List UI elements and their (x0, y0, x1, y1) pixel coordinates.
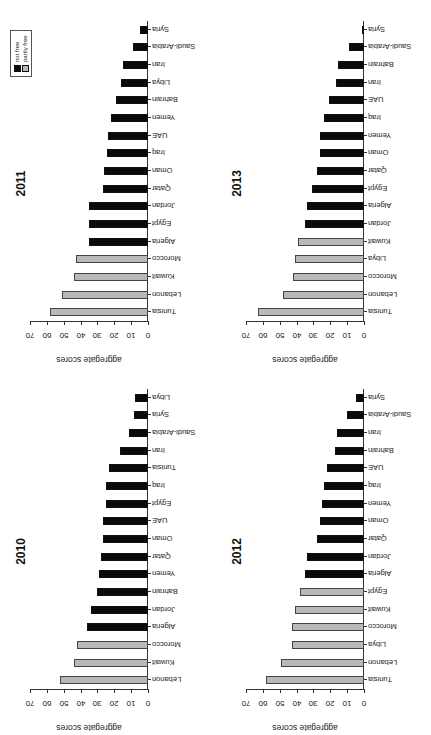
y-tick-label: 10 (124, 699, 138, 708)
y-axis-label-text: aggregate scores (56, 723, 122, 733)
x-tick (148, 556, 151, 557)
x-tick-label: Tunisia (368, 675, 392, 684)
bar-jordan (307, 553, 364, 561)
y-tick-label: 60 (40, 699, 54, 708)
x-tick (148, 414, 151, 415)
x-tick (364, 679, 367, 680)
x-tick (148, 64, 151, 65)
y-tick-label: 60 (40, 331, 54, 340)
bar-lebanon (281, 659, 364, 667)
y-tick-label: 50 (273, 699, 287, 708)
x-tick-label: Algeria (368, 201, 391, 210)
chart-title: 2013 (230, 0, 244, 367)
x-tick (364, 397, 367, 398)
x-tick-label: Lebanon (368, 658, 397, 667)
x-tick (364, 591, 367, 592)
legend-item: not free (13, 35, 21, 72)
x-tick-label: Saudi-Arabia (152, 42, 195, 51)
x-tick (364, 626, 367, 627)
bar-syria (140, 26, 148, 34)
x-tick-label: Egypt (368, 184, 387, 193)
figure-page: 2010aggregate scores010203040506070Leban… (0, 0, 431, 735)
x-tick (148, 679, 151, 680)
plot-area (30, 389, 148, 689)
x-tick-label: Qatar (152, 184, 171, 193)
x-tick-label: Tunisia (152, 307, 176, 316)
y-tick-label: 10 (340, 699, 354, 708)
x-tick-label: Qatar (368, 534, 387, 543)
y-tick (64, 689, 65, 693)
x-tick-label: Jordan (152, 201, 175, 210)
y-tick (280, 321, 281, 325)
bar-lebanon (60, 676, 148, 684)
y-tick (280, 689, 281, 693)
y-tick-label: 70 (23, 699, 37, 708)
bar-libya (295, 255, 364, 263)
x-tick (148, 450, 151, 451)
bar-oman (103, 535, 149, 543)
x-tick (148, 538, 151, 539)
x-tick-label: Iran (368, 428, 381, 437)
x-tick-label: Qatar (152, 552, 171, 561)
x-tick-label: Algeria (152, 237, 175, 246)
x-tick (364, 503, 367, 504)
bar-kuwait (74, 659, 148, 667)
y-tick (246, 321, 247, 325)
x-tick-label: Saudi-Arabia (152, 428, 195, 437)
y-axis: 010203040506070 (246, 321, 364, 333)
bar-qatar (101, 553, 148, 561)
bar-iran (336, 79, 364, 87)
bar-yemen (320, 132, 364, 140)
x-tick-label: Iran (152, 60, 165, 69)
bar-oman (320, 149, 364, 157)
bar-libya (121, 79, 148, 87)
y-tick (347, 689, 348, 693)
x-tick (364, 170, 367, 171)
x-tick-label: Iran (368, 78, 381, 87)
x-tick (364, 573, 367, 574)
y-tick-label: 0 (141, 699, 155, 708)
x-tick (148, 485, 151, 486)
x-tick-label: Yemen (152, 569, 175, 578)
y-tick-label: 60 (256, 699, 270, 708)
x-tick-label: Qatar (368, 166, 387, 175)
panel-2012: 2012aggregate scores010203040506070Tunis… (216, 368, 431, 735)
y-tick (364, 689, 365, 693)
bar-iraq (324, 482, 364, 490)
bar-morocco (293, 273, 364, 281)
bar-iran (337, 429, 364, 437)
x-tick-label: Iraq (368, 113, 381, 122)
x-tick-label: Yemen (368, 131, 391, 140)
x-tick (148, 188, 151, 189)
plot-area (30, 21, 148, 321)
x-tick-label: Saudi-Arabia (368, 410, 411, 419)
x-tick (364, 152, 367, 153)
legend: not freepartly free (10, 30, 32, 77)
y-axis: 010203040506070 (30, 321, 148, 333)
bar-kuwait (74, 273, 148, 281)
y-tick (313, 689, 314, 693)
x-tick-label: Bahrain (368, 60, 394, 69)
bar-yemen (99, 570, 148, 578)
bar-iraq (106, 482, 148, 490)
x-tick (364, 450, 367, 451)
x-tick (148, 591, 151, 592)
x-tick-label: Bahrain (152, 95, 178, 104)
y-tick-label: 40 (74, 331, 88, 340)
bar-saudi-arabia (129, 429, 148, 437)
bar-uae (108, 132, 148, 140)
bar-yemen (322, 500, 364, 508)
legend-swatch (22, 65, 29, 72)
x-tick-label: Saudi-Arabia (368, 42, 411, 51)
x-tick (364, 135, 367, 136)
y-tick-label: 0 (357, 331, 371, 340)
bar-yemen (111, 114, 148, 122)
bar-morocco (292, 623, 364, 631)
x-tick-label: Libya (152, 78, 170, 87)
x-tick-label: Oman (152, 166, 172, 175)
x-tick (148, 397, 151, 398)
bar-oman (104, 167, 148, 175)
y-tick-label: 70 (239, 699, 253, 708)
x-tick (148, 29, 151, 30)
y-tick-label: 70 (23, 331, 37, 340)
